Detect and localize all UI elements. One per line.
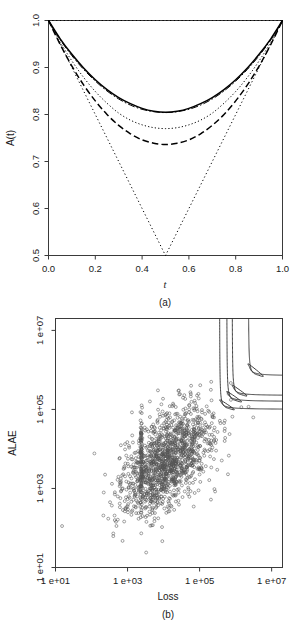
scatter-point (148, 505, 151, 508)
scatter-point (107, 517, 110, 520)
scatter-point (124, 475, 127, 478)
scatter-point (228, 433, 231, 436)
scatter-point (148, 510, 151, 513)
scatter-point (199, 384, 202, 387)
panel-a-x-tick: 0.6 (182, 263, 195, 274)
panel-a-x-tick: 1.0 (276, 263, 289, 274)
scatter-point (157, 408, 160, 411)
scatter-point (211, 446, 214, 449)
scatter-point (200, 462, 203, 465)
panel-a-y-tick: 0.5 (30, 249, 41, 262)
panel-a-curves (49, 21, 283, 256)
scatter-point (195, 461, 198, 464)
scatter-point (210, 498, 213, 501)
scatter-point (224, 436, 227, 439)
scatter-point (115, 525, 118, 528)
scatter-point (231, 415, 234, 418)
scatter-point (117, 475, 120, 478)
scatter-point (131, 434, 134, 437)
panel-b-y-tick: 1 e+03 (34, 474, 45, 503)
scatter-point (183, 490, 186, 493)
panel-b-x-axis-title: Loss (157, 591, 178, 602)
scatter-point (205, 423, 208, 426)
scatter-point (127, 503, 130, 506)
scatter-point (208, 448, 211, 451)
scatter-point (252, 416, 255, 419)
scatter-point (116, 495, 119, 498)
scatter-point (214, 442, 217, 445)
scatter-point (127, 457, 130, 460)
panel-a-x-tick-labels: 0.00.20.40.60.81.0 (42, 263, 289, 274)
scatter-point (169, 490, 172, 493)
scatter-point (190, 384, 193, 387)
scatter-point (198, 421, 201, 424)
scatter-point (163, 495, 166, 498)
scatter-point (197, 489, 200, 492)
scatter-point (181, 496, 184, 499)
scatter-point (123, 500, 126, 503)
scatter-point (116, 478, 119, 481)
scatter-point (188, 482, 191, 485)
scatter-point (153, 520, 156, 523)
scatter-point (129, 491, 132, 494)
scatter-point (188, 495, 191, 498)
panel-a-y-tick: 0.8 (30, 108, 41, 121)
scatter-point (213, 426, 216, 429)
scatter-point (198, 473, 201, 476)
scatter-point (118, 506, 121, 509)
scatter-point (183, 394, 186, 397)
scatter-point (109, 501, 112, 504)
panel-b-x-tick-labels: 1 e+011 e+031 e+051 e+07 (41, 575, 286, 586)
scatter-point (188, 408, 191, 411)
scatter-point (173, 508, 176, 511)
scatter-point (193, 492, 196, 495)
contour-curve-contour-4 (248, 319, 283, 377)
scatter-point (154, 433, 157, 436)
scatter-point (192, 505, 195, 508)
scatter-point (184, 482, 187, 485)
scatter-point (189, 391, 192, 394)
scatter-point (162, 397, 165, 400)
scatter-point (201, 424, 204, 427)
panel-b-loss-alae-scatter: 1 e+011 e+031 e+051 e+07 1 e+011 e+031 e… (0, 300, 306, 622)
scatter-point (104, 473, 107, 476)
scatter-point (143, 426, 146, 429)
panel-b-x-tick: 1 e+01 (41, 575, 70, 586)
scatter-point (148, 416, 151, 419)
scatter-point (125, 454, 128, 457)
panel-a-x-axis-title: t (164, 279, 168, 290)
scatter-point (227, 454, 230, 457)
scatter-point (191, 423, 194, 426)
scatter-point (119, 444, 122, 447)
panel-b-y-tick: 1 e+05 (34, 395, 45, 424)
panel-b-x-tick: 1 e+05 (185, 575, 214, 586)
scatter-point (132, 463, 135, 466)
scatter-point (203, 454, 206, 457)
scatter-point (188, 411, 191, 414)
scatter-point (139, 506, 142, 509)
panel-b-x-tick: 1 e+07 (257, 575, 286, 586)
scatter-point (220, 459, 223, 462)
scatter-point (195, 405, 198, 408)
scatter-point (130, 513, 133, 516)
scatter-point (139, 419, 142, 422)
scatter-point (118, 502, 121, 505)
scatter-point (174, 406, 177, 409)
panel-a-x-tick: 0.2 (89, 263, 102, 274)
panel-a-x-tick: 0.0 (42, 263, 55, 274)
scatter-point (207, 450, 210, 453)
scatter-point (119, 497, 122, 500)
scatter-point (189, 490, 192, 493)
scatter-point (147, 441, 150, 444)
scatter-point (145, 520, 148, 523)
panel-a-curve-nonparametric-estimate-dashdot (49, 21, 283, 113)
scatter-point (131, 411, 134, 414)
scatter-point (194, 478, 197, 481)
panel-a-svg: 0.50.60.70.80.91.0 0.00.20.40.60.81.0 t … (0, 0, 306, 311)
figure-container: 0.50.60.70.80.91.0 0.00.20.40.60.81.0 t … (0, 0, 306, 622)
scatter-point (102, 514, 105, 517)
panel-a-dependence-function: 0.50.60.70.80.91.0 0.00.20.40.60.81.0 t … (0, 0, 306, 311)
scatter-point (212, 429, 215, 432)
scatter-point (197, 397, 200, 400)
scatter-point (216, 468, 219, 471)
